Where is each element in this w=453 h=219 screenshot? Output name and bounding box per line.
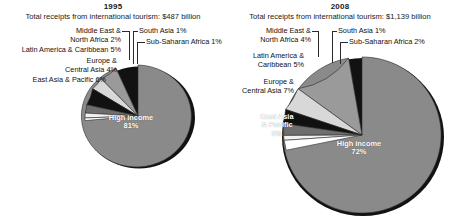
slice-label-2008-high-income: High income 72% — [319, 140, 399, 157]
leader-2008-middle-east-v — [318, 31, 319, 57]
leader-1995-middle-east-v — [129, 31, 130, 60]
callout-2008-sub-saharan-africa: Sub-Saharan Africa 2% — [349, 38, 425, 47]
callout-1995-east-asia-pacific: East Asia & Pacific 6% — [0, 76, 106, 85]
callout-2008-south-asia: South Asia 1% — [338, 27, 385, 36]
callout-1995-latin-america-caribbean: Latin America & Caribbean 5% — [0, 46, 121, 55]
callout-1995-middle-east-north-africa: Middle East & North Africa 2% — [4, 27, 121, 44]
callout-2008-middle-east-north-africa: Middle East & North Africa 4% — [227, 27, 311, 44]
panel-2008: 2008 Total receipts from international t… — [227, 0, 453, 219]
leader-2008-sub-saharan — [340, 42, 348, 43]
chart-title-2008: 2008 — [227, 2, 453, 11]
leader-2008-south-asia-v — [332, 31, 333, 63]
callout-2008-europe-central-asia: Europe & Central Asia 7% — [222, 78, 294, 95]
callout-1995-europe-central-asia: Europe & Central Asia 4% — [4, 57, 117, 74]
callout-1995-south-asia: South Asia 1% — [139, 27, 186, 36]
slice-label-1995-high-income: High income 81% — [96, 114, 166, 131]
callout-2008-latin-america-caribbean: Latin America & Caribbean 5% — [227, 52, 304, 69]
chart-subtitle-2008: Total receipts from international touris… — [223, 12, 453, 21]
leader-1995-middle-east — [122, 31, 129, 32]
callout-1995-sub-saharan-africa: Sub-Saharan Africa 1% — [146, 38, 222, 47]
slice-label-2008-east-asia-pacific: East Asia & Pacific 9% — [251, 113, 303, 138]
leader-1995-sub-saharan-v — [137, 42, 138, 64]
chart-subtitle-1995: Total receipts from international touris… — [0, 12, 232, 21]
panel-1995: 1995 Total receipts from international t… — [0, 0, 226, 219]
leader-1995-south-asia-v — [133, 31, 134, 64]
leader-1995-sub-saharan — [137, 42, 145, 43]
leader-2008-sub-saharan-v — [340, 42, 341, 64]
chart-title-1995: 1995 — [0, 2, 226, 11]
